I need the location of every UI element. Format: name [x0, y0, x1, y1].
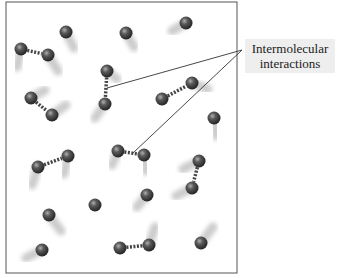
molecule [120, 27, 133, 40]
molecule [15, 43, 28, 56]
molecule [193, 155, 206, 168]
molecule [195, 237, 208, 250]
molecule [62, 150, 75, 163]
molecule [114, 242, 127, 255]
molecule [43, 209, 56, 222]
molecule [36, 244, 49, 257]
molecule [99, 98, 112, 111]
label-line-2: interactions [245, 56, 335, 71]
molecule [143, 239, 156, 252]
molecule [156, 93, 169, 106]
molecule [25, 92, 38, 105]
molecule [180, 17, 193, 30]
molecule [101, 65, 114, 78]
interactions-label: Intermolecular interactions [245, 39, 335, 73]
molecule [32, 161, 45, 174]
molecule [186, 77, 199, 90]
molecule [112, 145, 125, 158]
molecule [138, 149, 151, 162]
molecule [208, 112, 221, 125]
molecule [60, 26, 73, 39]
molecule [89, 199, 102, 212]
label-line-1: Intermolecular [245, 41, 335, 56]
molecule [141, 189, 154, 202]
molecule [46, 109, 59, 122]
molecule [186, 182, 199, 195]
molecule [42, 49, 55, 62]
